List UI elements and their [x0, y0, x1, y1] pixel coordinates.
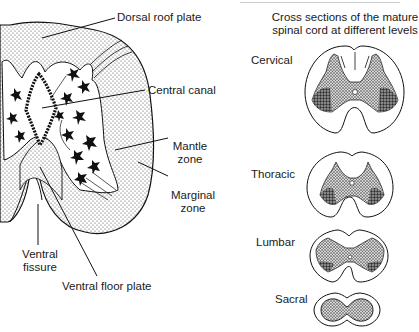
- label-mantle-zone-line2: zone: [170, 153, 210, 166]
- label-central-canal: Central canal: [148, 84, 216, 97]
- lumbar-section-drawing: [310, 230, 388, 282]
- label-ventral-fissure-line2: fissure: [20, 261, 60, 274]
- label-ventral-floor-plate: Ventral floor plate: [62, 280, 152, 293]
- label-cervical: Cervical: [251, 54, 293, 67]
- right-panel-title: Cross sections of the mature spinal cord…: [270, 11, 419, 37]
- label-marginal-zone-line1: Marginal: [168, 189, 218, 202]
- label-ventral-fissure-line1: Ventral: [20, 248, 60, 261]
- thoracic-section-drawing: [307, 152, 393, 217]
- sacral-section-drawing: [314, 293, 380, 326]
- label-lumbar: Lumbar: [256, 236, 295, 249]
- label-ventral-fissure: Ventral fissure: [20, 248, 60, 274]
- developing-cord-drawing: [0, 18, 168, 276]
- label-dorsal-roof-plate: Dorsal roof plate: [117, 11, 201, 24]
- label-mantle-zone-line1: Mantle: [170, 140, 210, 153]
- label-marginal-zone: Marginal zone: [168, 189, 218, 215]
- label-sacral: Sacral: [275, 293, 308, 306]
- label-marginal-zone-line2: zone: [168, 202, 218, 215]
- cervical-section-drawing: [305, 46, 404, 133]
- label-mantle-zone: Mantle zone: [170, 140, 210, 166]
- label-thoracic: Thoracic: [251, 168, 295, 181]
- right-panel-title-line2: spinal cord at different levels: [270, 24, 419, 37]
- right-panel-title-line1: Cross sections of the mature: [270, 11, 419, 24]
